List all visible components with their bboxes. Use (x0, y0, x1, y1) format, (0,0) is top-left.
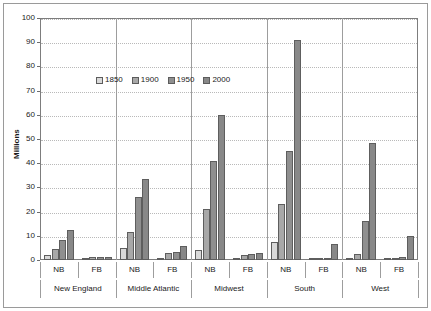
x-axis-group-label: FB (229, 265, 267, 274)
x-axis-group-labels: NBFBNBFBNBFBNBFBNBFB (40, 262, 418, 278)
y-axis-tick-label: 100 (1, 14, 35, 22)
bar (407, 236, 414, 260)
bar (67, 230, 74, 260)
bar (354, 254, 361, 260)
bar (105, 257, 112, 260)
bar (324, 258, 331, 260)
x-axis-group-label: FB (153, 265, 191, 274)
bar (120, 248, 127, 260)
x-axis-group-label: NB (267, 265, 305, 274)
bar (142, 179, 149, 260)
label-separator (342, 280, 343, 298)
bar (271, 242, 278, 260)
bar (218, 115, 225, 260)
label-separator (267, 262, 268, 278)
y-axis-tick-label: 20 (1, 208, 35, 216)
region-separator (116, 18, 117, 260)
y-axis-title: Millions (12, 129, 21, 159)
label-separator (380, 262, 381, 278)
bar (59, 240, 66, 260)
y-axis-tick-label: 50 (1, 135, 35, 143)
label-separator (40, 262, 41, 278)
x-axis-region-label: South (267, 284, 343, 293)
chart-legend: 1850190019502000 (96, 76, 230, 84)
label-separator (229, 262, 230, 278)
legend-label: 1850 (105, 76, 123, 84)
y-axis-tick-label: 70 (1, 87, 35, 95)
x-axis-region-label: New England (40, 284, 116, 293)
bar (241, 255, 248, 260)
legend-label: 2000 (212, 76, 230, 84)
region-separator (191, 18, 192, 260)
label-separator (191, 262, 192, 278)
label-separator (116, 280, 117, 298)
x-axis-group-label: FB (380, 265, 418, 274)
y-axis-tick-label: 30 (1, 183, 35, 191)
label-separator (418, 280, 419, 298)
bar (97, 257, 104, 260)
bar (309, 258, 316, 260)
x-axis-group-label: NB (191, 265, 229, 274)
y-axis-tick-label: 60 (1, 111, 35, 119)
bar (278, 204, 285, 260)
label-separator (153, 262, 154, 278)
x-axis-group-label: NB (40, 265, 78, 274)
x-axis-group-label: NB (116, 265, 154, 274)
label-separator (78, 262, 79, 278)
x-axis-region-label: Middle Atlantic (116, 284, 192, 293)
legend-item[interactable]: 2000 (203, 76, 230, 84)
bar (399, 257, 406, 260)
bar (392, 258, 399, 260)
bar (362, 221, 369, 260)
x-axis-group-label: NB (342, 265, 380, 274)
bar (157, 258, 164, 260)
region-separator (342, 18, 343, 260)
label-separator (342, 262, 343, 278)
label-separator (116, 262, 117, 278)
y-axis-tick-label: 10 (1, 232, 35, 240)
bar (286, 151, 293, 260)
x-axis-region-labels: New EnglandMiddle AtlanticMidwestSouthWe… (40, 280, 418, 298)
bar (233, 258, 240, 260)
legend-item[interactable]: 1850 (96, 76, 123, 84)
legend-swatch-icon (203, 77, 210, 84)
bar (316, 258, 323, 260)
legend-swatch-icon (168, 77, 175, 84)
bar (384, 258, 391, 260)
bar-series-layer (40, 18, 418, 260)
x-axis-region-label: Midwest (191, 284, 267, 293)
bar (89, 257, 96, 260)
bar (248, 254, 255, 260)
bar (165, 253, 172, 260)
region-separator (267, 18, 268, 260)
legend-item[interactable]: 1900 (132, 76, 159, 84)
y-axis-tick-label: 0 (1, 256, 35, 264)
label-separator (191, 280, 192, 298)
bar (173, 252, 180, 260)
label-separator (418, 262, 419, 278)
bar (44, 255, 51, 260)
bar (82, 258, 89, 260)
bar (256, 253, 263, 261)
bar (210, 161, 217, 260)
bar (346, 258, 353, 260)
bar (135, 197, 142, 260)
bar (203, 209, 210, 260)
x-axis-group-label: FB (305, 265, 343, 274)
chart-container: Millions 0102030405060708090100 18501900… (0, 0, 431, 311)
legend-item[interactable]: 1950 (168, 76, 195, 84)
legend-swatch-icon (96, 77, 103, 84)
y-axis-tick-label: 80 (1, 62, 35, 70)
bar (369, 143, 376, 260)
x-axis-region-label: West (342, 284, 418, 293)
x-axis-group-label: FB (78, 265, 116, 274)
legend-swatch-icon (132, 77, 139, 84)
y-axis-tick-label: 90 (1, 38, 35, 46)
bar (180, 246, 187, 260)
label-separator (305, 262, 306, 278)
bar (195, 250, 202, 260)
bar (127, 232, 134, 260)
bar (331, 244, 338, 260)
bar (52, 249, 59, 260)
bar (294, 40, 301, 260)
